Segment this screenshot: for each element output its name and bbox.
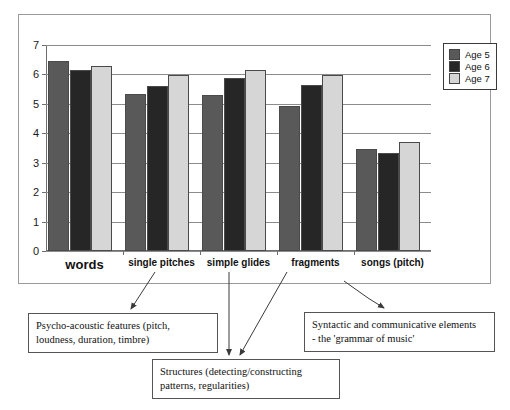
bar-group [123, 45, 200, 251]
legend-label: Age 6 [465, 61, 490, 72]
callout-syntactic-communicative-elements: Syntactic and communicative elements - t… [304, 312, 495, 352]
category-label-simple-glides: simple glides [200, 257, 277, 268]
category-label-single-pitches: single pitches [123, 257, 200, 268]
group-separator-tick [277, 251, 278, 255]
arrow-fragments-to-structures [240, 272, 287, 355]
callout-line-2: patterns, regularities) [160, 379, 332, 393]
y-axis-tick-label: 0 [33, 245, 39, 257]
category-label-words: words [46, 257, 123, 272]
legend-color-swatch [449, 73, 460, 84]
legend-label: Age 5 [465, 49, 490, 60]
y-axis-tick-label: 6 [33, 68, 39, 80]
legend-color-swatch [449, 61, 460, 72]
gridline-0 [46, 251, 431, 252]
bar [202, 95, 223, 251]
callout-structures: Structures (detecting/constructing patte… [152, 359, 340, 399]
callout-line-2: - the 'grammar of music' [312, 332, 487, 346]
bar-group [200, 45, 277, 251]
bar [91, 66, 112, 251]
bar-group [354, 45, 431, 251]
y-axis-tick-label: 3 [33, 157, 39, 169]
y-tick-mark-0 [42, 251, 46, 252]
bar [378, 153, 399, 251]
chart-legend: Age 5Age 6Age 7 [443, 43, 497, 90]
bar [279, 106, 300, 251]
callout-line-2: loudness, duration, timbre) [36, 333, 210, 347]
legend-color-swatch [449, 49, 460, 60]
y-axis-tick-label: 4 [33, 127, 39, 139]
bar [147, 86, 168, 251]
callout-psycho-acoustic-features: Psycho-acoustic features (pitch, loudnes… [28, 313, 218, 353]
plot-area: 76543210 [46, 45, 431, 251]
category-label-fragments: fragments [277, 257, 354, 268]
bar [245, 70, 266, 251]
bar [301, 85, 322, 251]
callout-line-1: Syntactic and communicative elements [312, 318, 487, 332]
bar [356, 149, 377, 251]
bar [125, 94, 146, 251]
bar-group [46, 45, 123, 251]
y-axis-tick-label: 7 [33, 39, 39, 51]
bar [48, 61, 69, 251]
bar-group [277, 45, 354, 251]
group-separator-tick [200, 251, 201, 255]
bar [70, 70, 91, 251]
callout-line-1: Psycho-acoustic features (pitch, [36, 319, 210, 333]
group-separator-tick [354, 251, 355, 255]
y-axis-tick-label: 5 [33, 98, 39, 110]
bar [168, 75, 189, 251]
category-label-songs-pitch-: songs (pitch) [354, 257, 431, 268]
chart-frame: 76543210 wordssingle pitchessimple glide… [18, 14, 491, 284]
y-axis-tick-label: 2 [33, 186, 39, 198]
legend-item: Age 5 [449, 49, 490, 60]
legend-item: Age 6 [449, 61, 490, 72]
y-axis-tick-label: 1 [33, 216, 39, 228]
group-separator-tick [123, 251, 124, 255]
arrow-songs-to-syntactic [368, 298, 384, 308]
legend-item: Age 7 [449, 73, 490, 84]
bar [399, 142, 420, 251]
callout-line-1: Structures (detecting/constructing [160, 365, 332, 379]
bar [322, 75, 343, 251]
bar [224, 78, 245, 251]
legend-label: Age 7 [465, 73, 490, 84]
